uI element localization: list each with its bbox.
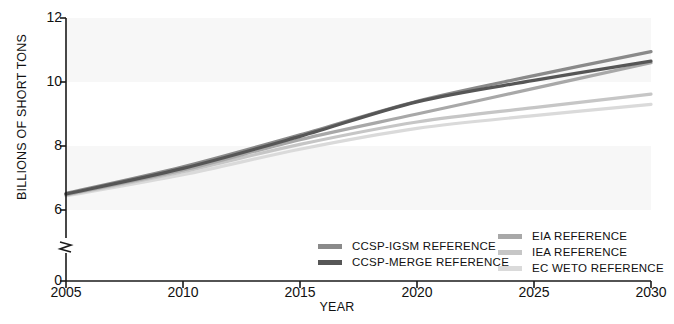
legend-item[interactable]: IEA REFERENCE bbox=[498, 244, 664, 260]
plot-band bbox=[66, 18, 651, 82]
x-tick-label: 2015 bbox=[260, 284, 340, 300]
legend-swatch-icon bbox=[498, 234, 522, 239]
legend-swatch-icon bbox=[498, 266, 522, 271]
legend-item[interactable]: EC WETO REFERENCE bbox=[498, 260, 664, 276]
x-tick-label: 2025 bbox=[494, 284, 574, 300]
legend-right-column: EIA REFERENCEIEA REFERENCEEC WETO REFERE… bbox=[498, 228, 664, 276]
legend-left-column: CCSP-IGSM REFERENCECCSP-MERGE REFERENCE bbox=[318, 238, 509, 270]
x-axis-title: YEAR bbox=[0, 300, 674, 314]
y-tick-label: 6 bbox=[22, 201, 62, 217]
legend-label: IEA REFERENCE bbox=[532, 244, 627, 260]
y-tick-label: 10 bbox=[22, 73, 62, 89]
legend-label: CCSP-MERGE REFERENCE bbox=[352, 254, 509, 270]
y-tick-label: 8 bbox=[22, 137, 62, 153]
legend-swatch-icon bbox=[318, 260, 342, 265]
legend-item[interactable]: CCSP-MERGE REFERENCE bbox=[318, 254, 509, 270]
x-tick-label: 2005 bbox=[26, 284, 106, 300]
legend-swatch-icon bbox=[318, 244, 342, 249]
x-tick-label: 2020 bbox=[377, 284, 457, 300]
legend-label: EC WETO REFERENCE bbox=[532, 260, 664, 276]
legend-swatch-icon bbox=[498, 250, 522, 255]
chart-figure: BILLIONS OF SHORT TONS YEAR 0681012 2005… bbox=[0, 0, 674, 324]
y-axis-title: BILLIONS OF SHORT TONS bbox=[15, 17, 29, 217]
legend-label: EIA REFERENCE bbox=[532, 228, 627, 244]
legend-item[interactable]: EIA REFERENCE bbox=[498, 228, 664, 244]
x-tick-label: 2030 bbox=[611, 284, 674, 300]
legend-item[interactable]: CCSP-IGSM REFERENCE bbox=[318, 238, 509, 254]
legend-label: CCSP-IGSM REFERENCE bbox=[352, 238, 496, 254]
x-tick-label: 2010 bbox=[143, 284, 223, 300]
axis-break-symbol bbox=[60, 242, 71, 252]
y-tick-label: 12 bbox=[22, 9, 62, 25]
